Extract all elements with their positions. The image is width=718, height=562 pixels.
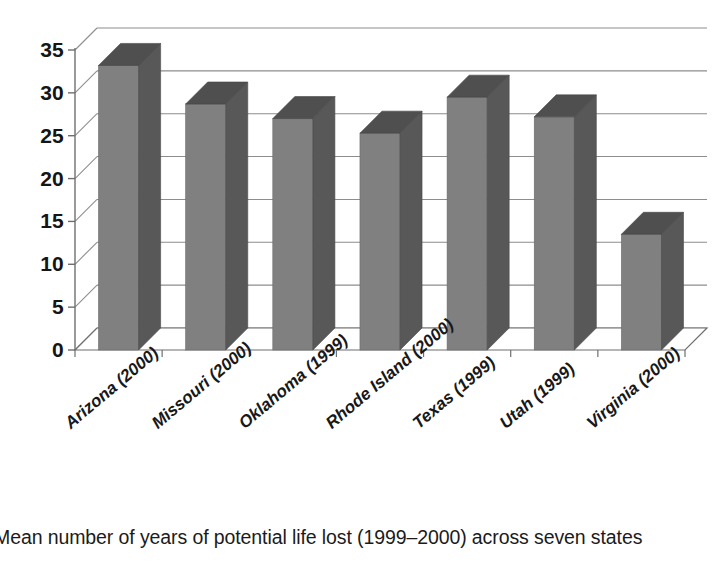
- x-axis-category-label: Arizona (2000): [61, 343, 163, 433]
- figure-3d-bar-chart: 05101520253035 Arizona (2000)Missouri (2…: [0, 0, 718, 562]
- x-axis-category-label: Virginia (2000): [583, 344, 684, 434]
- figure-caption: Mean number of years of potential life l…: [0, 524, 718, 550]
- x-axis-category-label: Utah (1999): [496, 359, 579, 433]
- x-axis-category-labels: Arizona (2000)Missouri (2000)Oklahoma (1…: [0, 0, 718, 505]
- x-axis-category-label: Texas (1999): [409, 353, 500, 434]
- chart-plot-area: 05101520253035 Arizona (2000)Missouri (2…: [0, 0, 718, 505]
